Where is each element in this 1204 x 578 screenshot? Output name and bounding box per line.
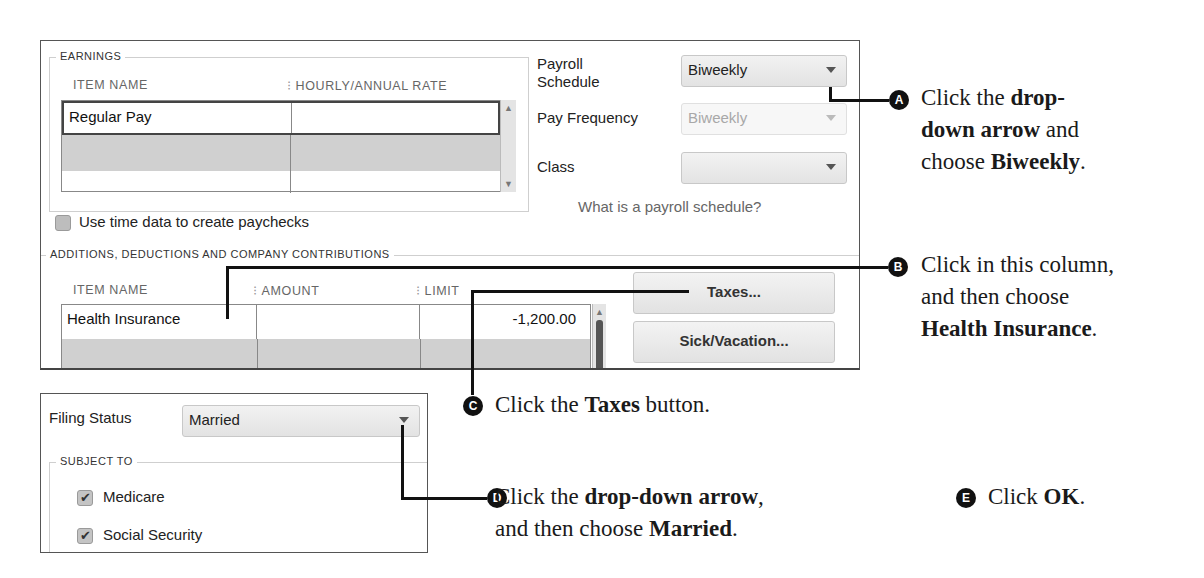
scrollbar-thumb[interactable]: [596, 320, 603, 370]
taxes-dialog-panel: Filing Status Married SUBJECT TO ✔ Medic…: [40, 393, 428, 553]
social-security-checkbox[interactable]: ✔: [77, 528, 93, 544]
callout-a-leader: [829, 99, 889, 102]
additions-scrollbar[interactable]: ▲: [592, 304, 606, 370]
class-dropdown[interactable]: [681, 152, 847, 184]
use-time-data-label: Use time data to create paychecks: [79, 213, 309, 230]
class-label: Class: [537, 158, 575, 175]
additions-col-amount[interactable]: ⁝AMOUNT: [253, 283, 319, 298]
additions-row[interactable]: [62, 339, 590, 370]
payroll-schedule-label: Payroll Schedule: [537, 55, 600, 91]
earnings-row[interactable]: [62, 171, 500, 193]
medicare-checkbox[interactable]: ✔: [77, 490, 93, 506]
social-security-label: Social Security: [103, 526, 202, 543]
callout-d-leader: [401, 425, 404, 500]
employee-payroll-info-panel: EARNINGS ITEM NAME ⁝HOURLY/ANNUAL RATE R…: [40, 40, 860, 370]
use-time-data-checkbox[interactable]: [55, 215, 71, 231]
earnings-col-item-name[interactable]: ITEM NAME: [73, 78, 148, 92]
filing-status-label: Filing Status: [49, 409, 132, 426]
callout-b-leader: [226, 266, 888, 269]
additions-row[interactable]: Health Insurance -1,200.00: [62, 305, 590, 339]
callout-e-badge: E: [956, 488, 976, 508]
earnings-row[interactable]: [62, 135, 500, 171]
pay-frequency-label: Pay Frequency: [537, 109, 638, 126]
earnings-item-name-cell[interactable]: [62, 171, 291, 193]
additions-item-name-cell[interactable]: [62, 339, 258, 370]
callout-d-text: Click the drop-down arrow, and then choo…: [495, 481, 764, 545]
additions-amount-cell[interactable]: [258, 339, 421, 370]
callout-c-text: Click the Taxes button.: [495, 389, 710, 421]
additions-grid: Health Insurance -1,200.00: [61, 304, 591, 370]
additions-col-item-name[interactable]: ITEM NAME: [73, 283, 148, 297]
earnings-col-rate[interactable]: ⁝HOURLY/ANNUAL RATE: [287, 78, 447, 93]
scroll-up-icon[interactable]: ▲: [593, 306, 606, 318]
additions-amount-cell[interactable]: [257, 305, 420, 339]
callout-d-leader: [401, 497, 487, 500]
callout-c-badge: C: [463, 396, 483, 416]
callout-b-badge: B: [888, 257, 908, 277]
pay-frequency-dropdown[interactable]: Biweekly: [681, 103, 847, 135]
earnings-item-name-cell[interactable]: Regular Pay: [64, 103, 292, 133]
earnings-item-name-cell[interactable]: [62, 135, 291, 171]
payroll-schedule-help-link[interactable]: What is a payroll schedule?: [578, 198, 761, 215]
callout-c-leader: [471, 290, 689, 293]
scroll-down-icon[interactable]: ▼: [501, 178, 516, 190]
chevron-down-icon[interactable]: [826, 67, 836, 73]
payroll-schedule-dropdown[interactable]: Biweekly: [681, 55, 847, 87]
medicare-label: Medicare: [103, 488, 165, 505]
sick-vacation-button[interactable]: Sick/Vacation...: [633, 321, 835, 363]
additions-limit-cell[interactable]: -1,200.00: [420, 305, 578, 339]
filing-status-dropdown[interactable]: Married: [182, 405, 420, 437]
additions-group-label: ADDITIONS, DEDUCTIONS AND COMPANY CONTRI…: [46, 248, 394, 260]
callout-a-badge: A: [889, 90, 909, 110]
earnings-rate-cell[interactable]: [292, 103, 502, 133]
chevron-down-icon[interactable]: [399, 417, 409, 423]
chevron-down-icon: [826, 115, 836, 121]
subject-to-label: SUBJECT TO: [56, 455, 137, 467]
taxes-button[interactable]: Taxes...: [633, 272, 835, 314]
callout-b-leader: [226, 266, 229, 319]
earnings-row[interactable]: Regular Pay: [62, 101, 500, 135]
earnings-scrollbar[interactable]: ▲ ▼: [500, 100, 516, 192]
earnings-group-label: EARNINGS: [56, 50, 125, 62]
scroll-up-icon[interactable]: ▲: [501, 102, 516, 114]
callout-e-text: Click OK.: [988, 481, 1085, 513]
callout-b-text: Click in this column, and then choose He…: [921, 249, 1114, 345]
additions-col-limit[interactable]: ⁝LIMIT: [416, 283, 460, 298]
callout-a-text: Click the drop- down arrow and choose Bi…: [921, 82, 1086, 178]
earnings-grid: Regular Pay: [61, 100, 501, 192]
chevron-down-icon[interactable]: [826, 164, 836, 170]
callout-c-leader: [471, 290, 474, 395]
